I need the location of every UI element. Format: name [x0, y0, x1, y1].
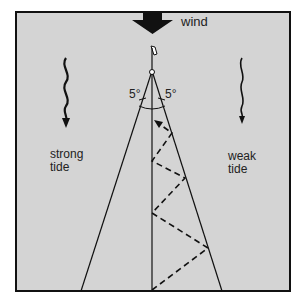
angle-left-label: 5° [129, 88, 140, 101]
strong-tide-label-line2: tide [50, 161, 69, 174]
angle-right-label: 5° [165, 88, 176, 101]
wind-label: wind [181, 15, 208, 28]
weak-tide-label-line2: tide [228, 163, 247, 176]
mark-buoy [150, 70, 155, 75]
tacking-diagram [0, 0, 302, 306]
